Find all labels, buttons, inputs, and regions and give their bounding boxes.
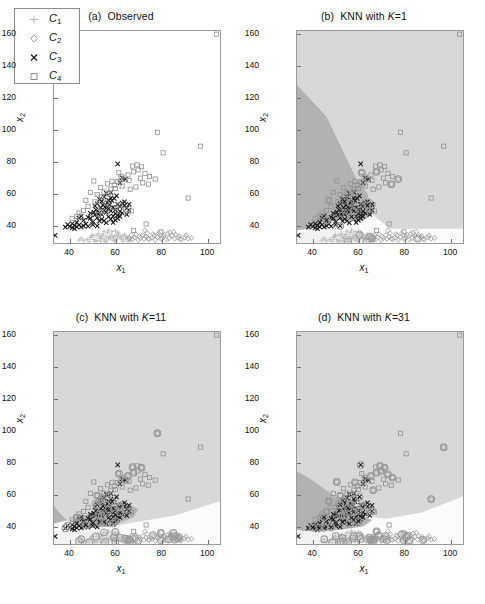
data-point-marker (146, 182, 150, 186)
data-point-marker (88, 491, 92, 495)
data-point-marker (384, 482, 388, 486)
panel-b-points (297, 31, 463, 243)
x-tick-label: 100 (435, 247, 465, 257)
data-point-marker (389, 483, 393, 487)
data-point-marker (396, 177, 400, 181)
knn-figure: (a) Observed C1 C2 C3 C4 x2 x1 40 (0, 0, 485, 604)
data-point-marker (329, 525, 333, 529)
data-point-marker (458, 333, 462, 337)
data-point-marker (143, 529, 148, 534)
data-point-marker (378, 163, 382, 167)
data-point-marker (144, 523, 148, 527)
data-point-marker (138, 477, 142, 481)
x-tick-mark (359, 239, 360, 243)
y-tick-mark (297, 66, 301, 67)
legend-c2-sub: 2 (57, 36, 61, 45)
panel-d-scatter-svg (297, 332, 463, 544)
y-tick-mark (297, 194, 301, 195)
data-point-marker (331, 190, 335, 194)
data-point-marker (389, 182, 393, 186)
legend-label-c2: C2 (49, 31, 61, 45)
data-point-marker (357, 495, 361, 499)
data-point-marker (127, 202, 131, 206)
data-point-marker (92, 179, 96, 183)
data-point-marker (199, 144, 203, 148)
data-point-marker (141, 482, 145, 486)
y-tick-label: 160 (219, 329, 259, 339)
data-point-marker (128, 488, 132, 492)
y-tick-label: 80 (219, 156, 259, 166)
data-point-marker (95, 224, 99, 228)
data-point-marker (386, 171, 390, 175)
y-tick-label: 120 (0, 393, 16, 403)
data-point-marker (296, 534, 300, 538)
x-tick-mark (162, 239, 163, 243)
data-point-marker (125, 513, 129, 517)
data-point-marker (384, 181, 388, 185)
y-tick-mark (54, 130, 58, 131)
x-tick-mark (359, 540, 360, 544)
data-point-marker (387, 523, 391, 527)
data-point-marker (161, 452, 165, 456)
data-point-marker (357, 194, 361, 198)
panel-a-tag: (a) (88, 10, 101, 22)
data-point-marker (104, 221, 108, 225)
x-tick-label: 80 (389, 247, 419, 257)
y-tick-label: 160 (0, 329, 16, 339)
y-tick-label: 100 (0, 425, 16, 435)
data-point-marker (324, 509, 328, 513)
class-legend: C1 C2 C3 C4 (14, 8, 80, 84)
panel-d-y-axis-label: x2 (257, 414, 270, 423)
data-point-marker (336, 204, 340, 208)
data-point-marker (429, 196, 433, 200)
y-tick-mark (54, 527, 58, 528)
data-point-marker (132, 471, 136, 475)
y-tick-mark (297, 130, 301, 131)
data-point-marker (143, 228, 148, 233)
data-point-marker (90, 523, 94, 527)
x-tick-mark (162, 540, 163, 544)
panel-b-title-text: KNN with (340, 10, 388, 22)
data-point-marker (404, 452, 408, 456)
panel-knn-k31: (d) KNN with K=31 x2 x1 4060801001201401… (243, 301, 485, 603)
panel-c-kval: =11 (149, 311, 166, 323)
y-tick-label: 40 (0, 220, 16, 230)
data-point-marker (347, 221, 351, 225)
x-tick-label: 100 (192, 548, 222, 558)
data-point-marker (94, 208, 98, 212)
data-point-marker (99, 487, 103, 491)
data-point-marker (130, 465, 134, 469)
data-point-marker (128, 187, 132, 191)
data-point-marker (53, 233, 57, 237)
legend-c1-text: C (49, 12, 57, 24)
y-tick-mark (54, 431, 58, 432)
panel-a-title-text: Observed (107, 10, 153, 22)
data-point-marker (373, 164, 377, 168)
x-tick-label: 60 (100, 548, 130, 558)
data-point-marker (115, 463, 119, 467)
x-tick-label: 60 (343, 548, 373, 558)
x-tick-label: 80 (146, 548, 176, 558)
x-tick-mark (116, 540, 117, 544)
panel-b-tag: (b) (321, 10, 334, 22)
y-tick-mark (297, 335, 301, 336)
x-tick-mark (313, 239, 314, 243)
data-point-marker (333, 534, 338, 539)
data-point-marker (81, 218, 85, 222)
data-point-marker (313, 517, 317, 521)
y-tick-mark (297, 226, 301, 227)
data-point-marker (105, 182, 109, 186)
y-tick-mark (54, 98, 58, 99)
y-tick-label: 100 (219, 425, 259, 435)
y-tick-mark (297, 162, 301, 163)
y-tick-label: 60 (219, 489, 259, 499)
data-point-marker (442, 144, 446, 148)
data-point-marker (88, 190, 92, 194)
data-point-marker (143, 472, 147, 476)
x-tick-mark (405, 239, 406, 243)
diamond-marker-icon (25, 29, 43, 48)
data-point-marker (375, 170, 379, 174)
x-tick-label: 60 (100, 247, 130, 257)
data-point-marker (141, 181, 145, 185)
y-tick-mark (297, 527, 301, 528)
